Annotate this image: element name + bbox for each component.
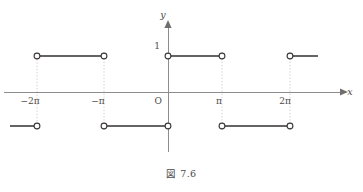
open-circle-zero-bottom	[165, 123, 171, 129]
open-circle-negpi-top	[101, 53, 107, 59]
open-circle-negpi-bottom	[101, 123, 107, 129]
open-circle-neg2pi-bottom	[34, 123, 40, 129]
step-function-segments	[10, 56, 318, 126]
x-tick-label-2pi: 2π	[279, 96, 291, 106]
y-tick-label-1: 1	[154, 41, 160, 51]
x-axis-label: x	[347, 86, 353, 97]
open-circle-2pi-bottom	[287, 123, 293, 129]
open-circle-neg2pi-top	[34, 53, 40, 59]
figure-container: x y 1 O −2π −π π 2π 図 7.6	[0, 0, 363, 192]
open-circle-2pi-top	[287, 53, 293, 59]
open-circle-pi-bottom	[219, 123, 225, 129]
open-circle-zero-top	[165, 53, 171, 59]
origin-label: O	[155, 96, 162, 106]
step-function-plot: x y 1 O −2π −π π 2π	[0, 0, 363, 192]
x-tick-label-negpi: −π	[91, 96, 105, 106]
discontinuity-markers	[34, 53, 293, 129]
y-axis-label: y	[159, 9, 166, 20]
figure-caption: 図 7.6	[0, 166, 363, 180]
x-tick-label-neg2pi: −2π	[20, 96, 39, 106]
open-circle-pi-top	[219, 53, 225, 59]
x-tick-label-pi: π	[216, 96, 222, 106]
guide-lines	[37, 52, 290, 130]
y-axis-arrow-icon	[164, 20, 171, 28]
